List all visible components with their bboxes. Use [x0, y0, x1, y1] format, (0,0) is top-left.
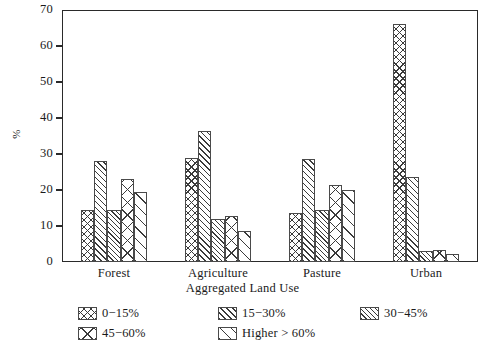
legend-item[interactable]: 0−15% — [78, 304, 139, 323]
bar — [185, 158, 198, 262]
legend-swatch-icon — [218, 307, 237, 320]
legend-label: 15−30% — [242, 306, 286, 321]
y-axis-ticks: 010203040506070 — [0, 0, 62, 272]
legend-swatch-icon — [360, 307, 379, 320]
x-axis-title: Aggregated Land Use — [0, 281, 485, 296]
legend-row: 45−60%Higher > 60% — [78, 324, 478, 343]
legend-swatch-icon — [78, 327, 97, 340]
bar — [289, 213, 302, 262]
legend-item[interactable]: 30−45% — [360, 304, 428, 323]
legend-swatch-icon — [78, 307, 97, 320]
bar-group — [289, 10, 355, 262]
bar — [329, 185, 342, 262]
bar — [198, 131, 211, 262]
bar — [419, 251, 432, 262]
legend-item[interactable]: 15−30% — [218, 304, 286, 323]
legend-label: Higher > 60% — [242, 326, 315, 341]
x-axis-tick-label: Urban — [366, 266, 485, 281]
bars-layer — [62, 10, 478, 262]
y-axis-tick-label: 0 — [19, 254, 53, 269]
bar — [446, 254, 459, 262]
bar — [94, 161, 107, 262]
bar — [342, 190, 355, 262]
bar — [121, 179, 134, 262]
bar — [406, 177, 419, 262]
bar-group — [393, 10, 459, 262]
y-axis-tick-label: 10 — [19, 218, 53, 233]
bar — [302, 159, 315, 262]
x-axis-tick-label: Forest — [54, 266, 174, 281]
legend-row: 0−15%15−30%30−45% — [78, 304, 478, 323]
bar-group — [81, 10, 147, 262]
legend-label: 0−15% — [102, 306, 139, 321]
bar — [81, 210, 94, 262]
x-axis-tick-label: Agriculture — [158, 266, 278, 281]
bar — [225, 216, 238, 262]
y-axis-tick-label: 20 — [19, 182, 53, 197]
bar — [107, 210, 120, 262]
y-axis-tick-label: 70 — [19, 2, 53, 17]
bar — [393, 24, 406, 262]
legend-label: 30−45% — [384, 306, 428, 321]
y-axis-tick-label: 50 — [19, 74, 53, 89]
legend-swatch-icon — [218, 327, 237, 340]
bar — [315, 210, 328, 262]
legend-item[interactable]: Higher > 60% — [218, 324, 315, 343]
legend-label: 45−60% — [102, 326, 146, 341]
bar — [433, 250, 446, 262]
bar — [134, 192, 147, 262]
y-axis-tick-label: 30 — [19, 146, 53, 161]
bar-chart: % 010203040506070 ForestAgriculturePastu… — [0, 0, 485, 347]
y-axis-tick-label: 40 — [19, 110, 53, 125]
legend-item[interactable]: 45−60% — [78, 324, 146, 343]
y-axis-tick-label: 60 — [19, 38, 53, 53]
x-axis-tick-label: Pasture — [262, 266, 382, 281]
bar — [238, 231, 251, 262]
bar-group — [185, 10, 251, 262]
bar — [211, 219, 224, 262]
